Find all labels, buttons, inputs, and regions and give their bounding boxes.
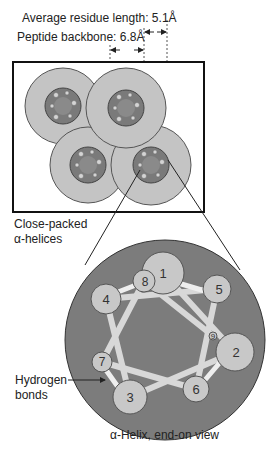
residue-6: 6 [183, 376, 209, 402]
hydrogen-bonds-label-2: bonds [15, 388, 48, 402]
hydrogen-bonds-label-1: Hydrogen [15, 373, 67, 387]
svg-text:6: 6 [192, 382, 199, 397]
residue-4: 4 [91, 284, 121, 314]
backbone-label: Peptide backbone: 6.8Å [17, 30, 144, 44]
residue-8: 8 [133, 270, 155, 292]
svg-text:7: 7 [99, 355, 106, 369]
svg-text:8: 8 [142, 275, 149, 289]
close-packed-label-1: Close-packed [14, 217, 87, 231]
close-packed-label-2: α-helices [14, 232, 62, 246]
svg-text:2: 2 [232, 345, 239, 360]
residue-2: 2 [216, 333, 254, 371]
svg-text:3: 3 [126, 390, 133, 405]
svg-text:4: 4 [102, 292, 109, 307]
residue-length-label: Average residue length: 5.1Å [22, 11, 177, 25]
residue-3: 3 [113, 380, 147, 414]
svg-text:5: 5 [215, 282, 222, 297]
caption: α-Helix, end-on view [110, 428, 219, 442]
residue-7: 7 [92, 352, 112, 372]
close-packed-helices-panel [13, 62, 204, 212]
svg-text:1: 1 [159, 266, 166, 281]
svg-text:9: 9 [211, 332, 216, 341]
helix-top-right [86, 68, 166, 148]
residue-5: 5 [203, 275, 231, 303]
